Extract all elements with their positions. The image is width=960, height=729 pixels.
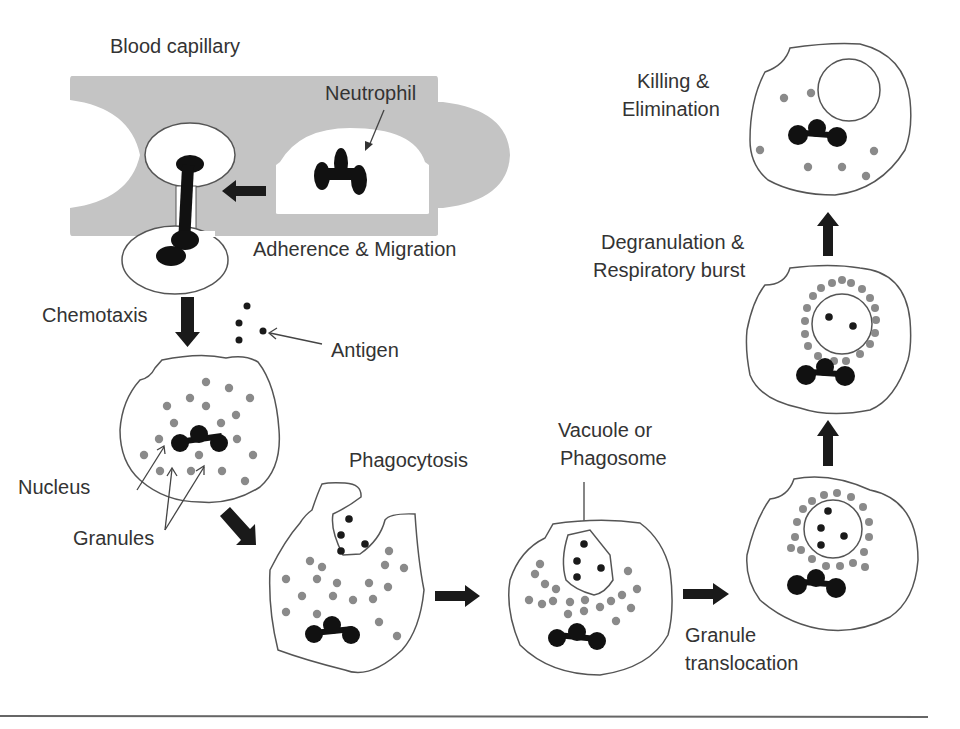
neutrophil-label: Neutrophil xyxy=(325,82,416,104)
neutrophil-phagocytosis-diagram: Blood capillary Neutrophil Adherence & M… xyxy=(0,0,960,729)
degranulation-cell xyxy=(746,266,910,414)
degranulation-label-line2: Respiratory burst xyxy=(593,259,746,281)
chemotaxis-arrow-icon xyxy=(175,297,200,347)
antigen-label: Antigen xyxy=(331,339,399,361)
phagocytosis-label: Phagocytosis xyxy=(349,449,468,471)
killed-cell xyxy=(750,44,911,196)
vacuole-label-line2: Phagosome xyxy=(560,447,667,469)
phagosome-cell xyxy=(509,520,672,675)
antigen-pointer-arrow xyxy=(270,333,322,344)
granules-label: Granules xyxy=(73,527,154,549)
antigen-particles xyxy=(236,303,267,344)
phagocytosing-cell xyxy=(270,483,424,673)
resting-neutrophil-cell xyxy=(120,355,279,502)
vacuole-label-line1: Vacuole or xyxy=(558,419,652,441)
adherence-migration-label: Adherence & Migration xyxy=(253,238,456,260)
killing-label-line1: Killing & xyxy=(637,70,710,92)
antigen-particles xyxy=(337,515,369,555)
degranulation-label-line1: Degranulation & xyxy=(601,231,745,253)
bottom-divider xyxy=(0,716,928,717)
killing-label-line2: Elimination xyxy=(622,98,720,120)
chemotaxis-label: Chemotaxis xyxy=(42,304,148,326)
granule-translocation-label-line2: translocation xyxy=(685,652,798,674)
blood-capillary-label: Blood capillary xyxy=(110,35,240,57)
granule-translocation-label-line1: Granule xyxy=(685,624,756,646)
degranulation-arrow-icon xyxy=(817,420,839,466)
killing-arrow-icon xyxy=(817,212,839,256)
translocation-arrow-icon xyxy=(683,583,729,605)
granule-translocation-cell xyxy=(747,477,918,630)
phagocytosis-arrow-icon xyxy=(220,507,256,545)
phagosome-arrow-icon xyxy=(435,585,480,607)
nucleus-label: Nucleus xyxy=(18,476,90,498)
